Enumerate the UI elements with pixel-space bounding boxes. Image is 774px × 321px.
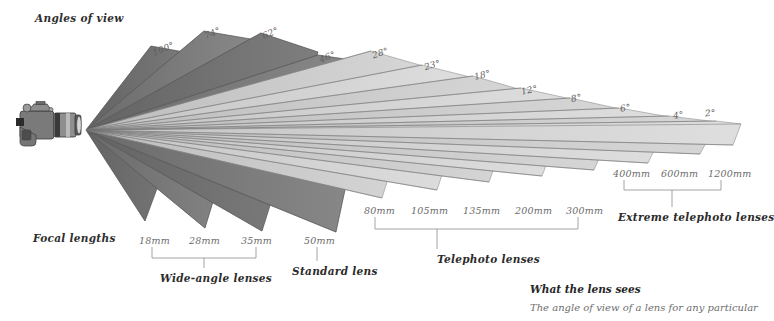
focal-label-50mm: 50mm [304, 235, 335, 246]
angle-label-6: 6° [619, 102, 631, 114]
angle-label-2: 2° [705, 107, 717, 118]
focal-label-28mm: 28mm [189, 235, 220, 246]
focal-lengths-title: Focal lengths [33, 232, 116, 244]
angle-label-8: 8° [570, 92, 582, 104]
focal-label-135mm: 135mm [463, 205, 500, 216]
focal-label-300mm: 300mm [566, 205, 603, 216]
caption-heading: What the lens sees [530, 283, 641, 295]
group-label-wide-angle: Wide-angle lenses [160, 272, 272, 284]
focal-label-600mm: 600mm [661, 168, 698, 179]
focal-label-35mm: 35mm [241, 235, 272, 246]
group-label-telephoto: Telephoto lenses [437, 253, 540, 265]
angles-of-view-title: Angles of view [35, 12, 124, 24]
camera-icon [16, 102, 81, 147]
bracket-wide-angle [152, 247, 256, 268]
bracket-telephoto [375, 217, 578, 249]
bracket-extreme-telephoto [624, 180, 721, 207]
group-label-extreme-telephoto: Extreme telephoto lenses [618, 211, 774, 223]
focal-label-18mm: 18mm [139, 235, 170, 246]
focal-label-400mm: 400mm [613, 168, 650, 179]
angle-label-4: 4° [672, 109, 684, 120]
focal-label-200mm: 200mm [515, 205, 552, 216]
group-label-standard: Standard lens [292, 265, 378, 277]
focal-label-1200mm: 1200mm [708, 168, 751, 179]
focal-label-105mm: 105mm [411, 205, 448, 216]
focal-label-80mm: 80mm [364, 205, 395, 216]
wedge-group [86, 31, 741, 232]
caption-line-1: The angle of view of a lens for any part… [530, 301, 758, 315]
